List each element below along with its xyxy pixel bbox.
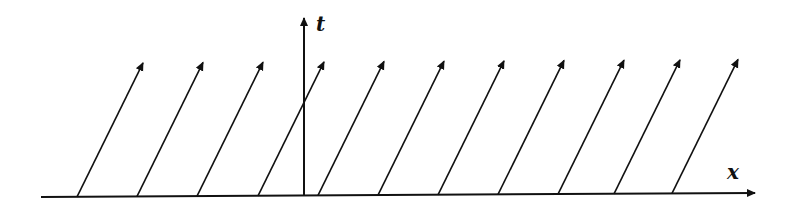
characteristic-arrow	[438, 61, 504, 195]
characteristic-arrow	[378, 61, 444, 195]
characteristic-arrow	[318, 61, 384, 195]
characteristic-arrow	[197, 62, 263, 196]
characteristic-arrow	[137, 62, 203, 196]
characteristic-arrow	[258, 62, 324, 196]
characteristic-arrows	[77, 59, 738, 196]
characteristic-arrow	[614, 60, 680, 194]
t-axis-label: t	[316, 12, 325, 36]
characteristic-arrow	[77, 63, 143, 197]
characteristic-arrow	[498, 60, 564, 194]
characteristics-diagram	[0, 0, 793, 215]
x-axis-label: x	[727, 160, 739, 184]
characteristic-arrow	[558, 60, 624, 194]
x-axis	[41, 193, 755, 197]
